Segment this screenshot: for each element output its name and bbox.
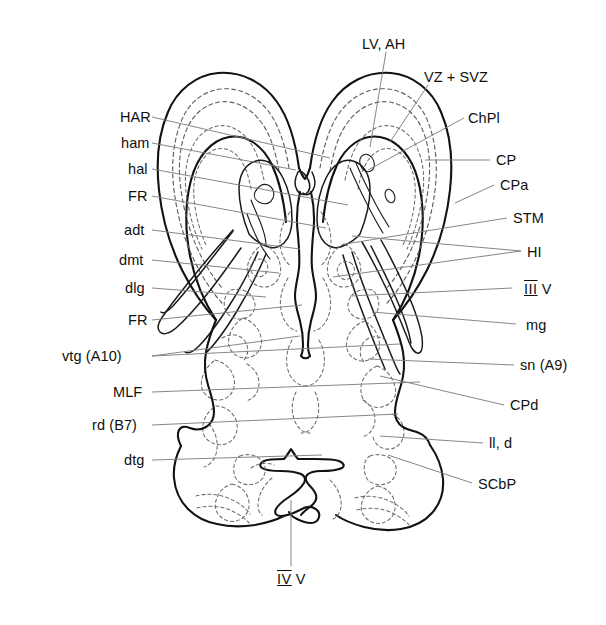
cerebellum-left-nucleus-2	[215, 484, 249, 521]
label-vtg-text: vtg (A10)	[62, 348, 122, 364]
third-ventricle-outline-right	[308, 192, 316, 356]
right-lld-nucleus	[361, 366, 396, 407]
label-third-ventricle: III V	[524, 282, 552, 297]
label-adt: adt	[124, 223, 144, 238]
label-dlg-text: dlg	[125, 280, 145, 296]
leader-sn	[368, 359, 514, 365]
leader-vtg-b	[152, 336, 300, 356]
left-mlf-dashed	[246, 364, 259, 401]
label-fourth-ventricle-numeral: IV	[277, 571, 292, 587]
right-scbp-dashed	[362, 400, 375, 437]
label-adt-text: adt	[124, 222, 144, 238]
label-vz-svz: VZ + SVZ	[424, 70, 488, 85]
label-sn: sn (A9)	[520, 358, 567, 373]
label-lv-ah-text: LV, AH	[362, 36, 405, 52]
left-cortical-plate-dashed-1	[173, 89, 289, 303]
label-stm: STM	[513, 211, 544, 226]
label-scbp: SCbP	[478, 477, 516, 492]
label-third-ventricle-v: V	[538, 281, 552, 297]
label-chpl: ChPl	[468, 111, 500, 126]
leader-scbp	[388, 455, 472, 483]
leader-vzsvz	[390, 85, 428, 142]
cerebellum-left-cortex-band	[196, 494, 250, 514]
label-scbp-text: SCbP	[478, 476, 516, 492]
right-subplate-dashed-3	[345, 126, 424, 249]
cerebellum-vermis-left	[258, 478, 272, 515]
right-scbp-lower-dashed	[373, 414, 404, 449]
label-har: HAR	[120, 110, 151, 125]
leader-lvah	[370, 52, 386, 147]
label-dtg-text: dtg	[124, 452, 144, 468]
right-hemisphere-outer-outline	[310, 73, 451, 320]
third-ventricle-outline	[295, 192, 303, 356]
cerebellum-right-nucleus-1	[364, 455, 396, 485]
left-hippocampal-fimbria	[254, 184, 273, 203]
label-cpd: CPd	[510, 398, 539, 413]
leader-vtg-a	[152, 344, 400, 356]
brain-section-drawing	[0, 0, 606, 625]
label-rd-text: rd (B7)	[92, 417, 137, 433]
right-choroid-plexus-upper	[357, 152, 377, 174]
right-stm-band-outer	[352, 252, 400, 374]
midline-tegmental-right	[314, 278, 331, 331]
label-mlf-text: MLF	[113, 384, 142, 400]
label-mg-text: mg	[526, 317, 546, 333]
leader-mlf	[152, 382, 420, 392]
leader-har	[152, 117, 330, 158]
label-hi-text: HI	[527, 244, 542, 260]
leader-hal	[152, 169, 348, 205]
midline-pontine-right	[301, 392, 319, 433]
leader-rd	[152, 414, 398, 425]
right-sn-nucleus	[346, 321, 379, 361]
label-mg: mg	[526, 318, 546, 333]
label-ll-d-text: ll, d	[489, 435, 512, 451]
left-vz-dashed-4	[194, 148, 251, 245]
label-ll-d: ll, d	[489, 436, 512, 451]
label-ham-text: ham	[121, 135, 150, 151]
label-dmt: dmt	[119, 253, 143, 268]
label-sn-text: sn (A9)	[520, 357, 567, 373]
label-fourth-ventricle: IV V	[277, 572, 306, 587]
left-pontine-dashed	[204, 424, 217, 467]
label-fr-lower-text: FR	[128, 312, 148, 328]
label-vz-svz-text: VZ + SVZ	[424, 69, 488, 85]
right-ventricle-medial-wall	[356, 163, 389, 227]
left-hemisphere	[158, 73, 299, 467]
label-cpa-text: CPa	[500, 177, 529, 193]
leader-cpa	[455, 185, 494, 203]
figure-canvas: HAR ham hal FR adt dmt dlg FR vtg (A10) …	[0, 0, 606, 625]
label-rd: rd (B7)	[92, 418, 137, 433]
third-ventricle-terminal	[301, 356, 310, 358]
label-mlf: MLF	[113, 385, 142, 400]
leader-stm	[345, 218, 507, 244]
brainstem-left-border	[178, 320, 216, 446]
label-cp: CP	[496, 153, 516, 168]
label-cp-text: CP	[496, 152, 516, 168]
right-vz-dashed-4	[358, 148, 415, 245]
cerebellum-vermis-right	[330, 480, 341, 519]
label-cpa: CPa	[500, 178, 529, 193]
label-third-ventricle-numeral: III	[524, 281, 538, 297]
left-hemisphere-outer-outline	[158, 73, 299, 320]
leader-lld	[380, 436, 483, 443]
label-fourth-ventricle-v: V	[292, 571, 306, 587]
label-hal-text: hal	[128, 161, 148, 177]
label-har-text: HAR	[120, 109, 151, 125]
midline-structures	[280, 168, 331, 433]
midline-pontine-left	[292, 392, 310, 433]
leader-adt	[152, 230, 300, 249]
leader-hi-2	[333, 251, 521, 277]
cerebellum-right-cortex-band	[355, 496, 409, 516]
label-dlg: dlg	[125, 281, 145, 296]
label-fr-lower: FR	[128, 313, 148, 328]
cerebellum-right-nucleus-2	[361, 486, 395, 523]
label-hal: hal	[128, 162, 148, 177]
label-vtg: vtg (A10)	[62, 349, 122, 364]
label-dtg: dtg	[124, 453, 144, 468]
label-chpl-text: ChPl	[468, 110, 500, 126]
leader-fr2	[152, 305, 302, 320]
right-choroid-plexus-lower	[383, 188, 397, 204]
label-hi: HI	[527, 245, 542, 260]
label-stm-text: STM	[513, 210, 544, 226]
right-ventricle-lateral-wall	[350, 168, 383, 233]
